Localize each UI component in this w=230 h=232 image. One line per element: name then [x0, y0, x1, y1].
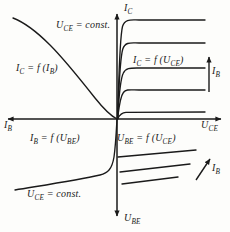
annotation-ic-f-ib: IC = f (IB) — [16, 63, 58, 76]
axis-label-ube: UBE — [124, 213, 141, 226]
axis-label-uce: UCE — [201, 120, 218, 133]
reverse-line-3 — [122, 177, 178, 184]
annotation-ic-f-uce: IC = f (UCE) — [133, 55, 184, 68]
input-curve — [15, 119, 117, 190]
reverse-line-2 — [120, 164, 190, 172]
q1-output-curve-family — [118, 20, 206, 119]
annotation-ib-arrow-top: IB — [212, 66, 220, 79]
output-curve-1 — [118, 112, 206, 119]
annotation-uce-const-bottom: UCE = const. — [27, 189, 81, 202]
ib-increase-arrow-bottom — [196, 159, 210, 180]
q4-reverse-line-family — [118, 150, 196, 184]
annotation-ube-f-uce: UBE = f (UCE) — [117, 133, 176, 146]
output-curve-5 — [118, 20, 206, 119]
output-curve-3 — [118, 68, 206, 119]
axis-label-ib: IB — [4, 120, 12, 133]
annotation-ib-f-ube: IB = f (UBE) — [30, 133, 80, 146]
q3-input-curve — [15, 119, 117, 190]
annotation-ib-arrow-bottom: IB — [212, 163, 220, 176]
reverse-line-1 — [118, 150, 196, 157]
transistor-characteristic-figure: IC UBE UCE IB UCE = const. IC = f (IB) I… — [0, 0, 230, 232]
annotation-uce-const-top: UCE = const. — [56, 20, 110, 33]
axis-label-ic: IC — [124, 3, 133, 16]
output-curve-2 — [118, 90, 206, 119]
